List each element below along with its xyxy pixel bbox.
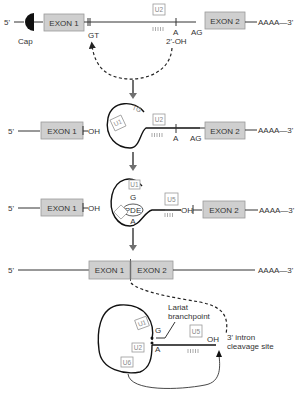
five-prime-label: 5' bbox=[8, 127, 14, 136]
five-prime-label: 5' bbox=[8, 266, 14, 275]
oh-label: OH bbox=[88, 204, 100, 213]
u2-pairing-ticks bbox=[153, 27, 163, 31]
u2-label: U2 bbox=[134, 344, 143, 351]
cleavage-site-label-1: 3' intron bbox=[227, 333, 255, 342]
polya-label: AAAA—3' bbox=[258, 266, 294, 275]
exon-2-label: EXON 2 bbox=[210, 17, 240, 26]
exon-2-label: EXON 2 bbox=[210, 127, 240, 136]
exon-2-label: EXON 2 bbox=[137, 266, 167, 275]
branchpoint-label: branchpoint bbox=[168, 312, 211, 321]
step-2-lariat-formation: 5' EXON 1 OH U1 TG U2 A AG EXON 2 AAAA—3… bbox=[8, 104, 294, 148]
tg-label: TG bbox=[131, 104, 142, 114]
cleavage-site-label-2: cleavage site bbox=[227, 342, 274, 351]
oh-label: OH bbox=[207, 335, 219, 344]
u5-label: U5 bbox=[167, 196, 176, 203]
u2-label: U2 bbox=[155, 6, 164, 13]
step-5-lariat-release: G A Lariat branchpoint U1 U2 U6 U5 OH 3'… bbox=[98, 303, 274, 388]
five-prime-label: 5' bbox=[4, 18, 10, 27]
u6-label: U6 bbox=[123, 359, 132, 366]
exon-1-label: EXON 1 bbox=[49, 19, 79, 28]
exon-2-label: EXON 2 bbox=[209, 206, 239, 215]
polya-label: AAAA—3' bbox=[258, 18, 294, 27]
a-label: A bbox=[173, 28, 179, 37]
ag-label: AG bbox=[190, 134, 202, 143]
exon-1-label: EXON 1 bbox=[47, 127, 77, 136]
g-label: G bbox=[155, 326, 161, 335]
splicing-diagram: 5' Cap EXON 1 GT U2 A 2'-OH AG EXON 2 AA… bbox=[0, 0, 302, 393]
oh-label: OH bbox=[88, 127, 100, 136]
oh-label-2: OH bbox=[181, 206, 193, 215]
oh-label: 2'-OH bbox=[166, 37, 187, 46]
step-1-pre-mrna: 5' Cap EXON 1 GT U2 A 2'-OH AG EXON 2 AA… bbox=[4, 4, 294, 79]
five-prime-label: 5' bbox=[8, 204, 14, 213]
gt-label: GT bbox=[88, 31, 99, 40]
u1-label: U1 bbox=[130, 181, 139, 188]
g-label: G bbox=[130, 193, 136, 202]
attack-arrow bbox=[92, 45, 172, 79]
lariat-label: Lariat bbox=[168, 303, 189, 312]
step-3-spliceosome: 5' EXON 1 OH U1 G PDE A U5 OH EXON 2 AAA… bbox=[8, 179, 295, 226]
exon-1-label: EXON 1 bbox=[95, 266, 125, 275]
cap-label: Cap bbox=[18, 37, 33, 46]
a-label: A bbox=[173, 134, 179, 143]
polya-label: AAAA—3' bbox=[259, 206, 295, 215]
ag-label: AG bbox=[191, 28, 203, 37]
cap-icon bbox=[25, 13, 34, 31]
exon-1-label: EXON 1 bbox=[47, 204, 77, 213]
polya-label: AAAA—3' bbox=[258, 126, 294, 135]
u5-label: U5 bbox=[192, 328, 201, 335]
a-label: A bbox=[155, 345, 161, 354]
pde-label: PDE bbox=[125, 206, 141, 215]
u2-label: U2 bbox=[155, 116, 164, 123]
a-label: A bbox=[130, 217, 136, 226]
